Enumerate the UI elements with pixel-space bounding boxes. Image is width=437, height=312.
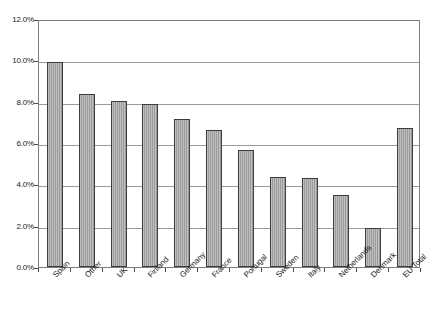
bar-italy — [302, 178, 318, 267]
y-axis-tick-label: 6.0% — [17, 140, 34, 148]
y-axis-tick-mark — [34, 185, 38, 186]
gridline — [39, 145, 419, 146]
bar-uk — [111, 101, 127, 267]
x-axis-tick-mark — [388, 268, 389, 272]
plot-area — [38, 20, 420, 268]
y-axis-tick-mark — [34, 227, 38, 228]
x-axis-tick-mark — [70, 268, 71, 272]
x-axis-tick-mark — [134, 268, 135, 272]
bar-eu-total — [397, 128, 413, 268]
y-axis-tick-label: 8.0% — [17, 99, 34, 107]
x-axis-tick-mark — [356, 268, 357, 272]
gridline — [39, 62, 419, 63]
x-axis-tick-mark — [229, 268, 230, 272]
x-axis-tick-mark — [38, 268, 39, 272]
y-axis-tick-label: 12.0% — [12, 16, 34, 24]
x-axis-tick-mark — [420, 268, 421, 272]
y-axis-tick-label: 4.0% — [17, 181, 34, 189]
x-axis-tick-mark — [293, 268, 294, 272]
bar-portugal — [238, 150, 254, 267]
bar-france — [206, 130, 222, 267]
y-axis-tick-mark — [34, 103, 38, 104]
gridline — [39, 186, 419, 187]
bar-finland — [142, 104, 158, 267]
x-axis-tick-mark — [197, 268, 198, 272]
bar-netherlands — [333, 195, 349, 267]
gridline — [39, 228, 419, 229]
y-axis-tick-label: 2.0% — [17, 223, 34, 231]
gridline — [39, 104, 419, 105]
x-axis-tick-mark — [324, 268, 325, 272]
bar-chart: 12.0%10.0%8.0%6.0%4.0%2.0%0.0% SpainOthe… — [0, 0, 437, 312]
y-axis-tick-label: 10.0% — [12, 57, 34, 65]
x-axis-tick-mark — [165, 268, 166, 272]
bar-spain — [47, 62, 63, 267]
y-axis-tick-labels: 12.0%10.0%8.0%6.0%4.0%2.0%0.0% — [0, 0, 34, 312]
y-axis-tick-label: 0.0% — [17, 264, 34, 272]
bar-sweden — [270, 177, 286, 267]
x-axis-tick-mark — [102, 268, 103, 272]
y-axis-tick-mark — [34, 20, 38, 21]
y-axis-tick-mark — [34, 61, 38, 62]
y-axis-tick-mark — [34, 144, 38, 145]
bar-germany — [174, 119, 190, 267]
x-axis-tick-mark — [261, 268, 262, 272]
bar-other — [79, 94, 95, 267]
